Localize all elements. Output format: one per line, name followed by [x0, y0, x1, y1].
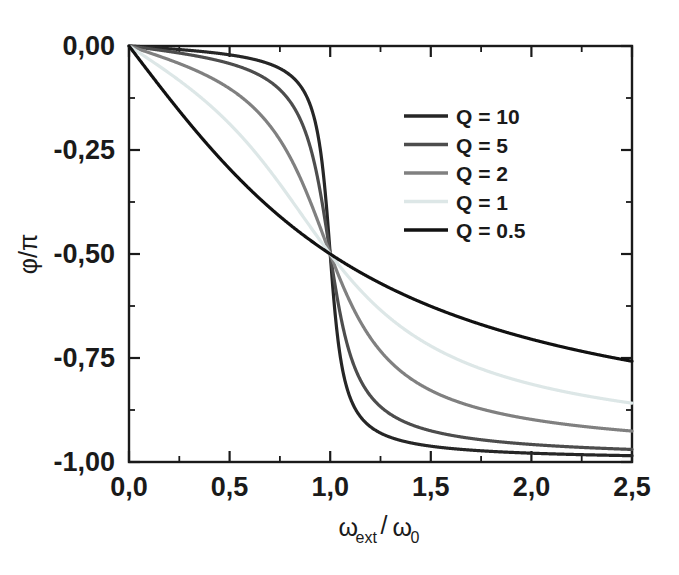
chart-legend: Q = 10Q = 5Q = 2Q = 1Q = 0.5 — [404, 105, 526, 242]
plot-border — [129, 46, 632, 462]
y-axis-tick-labels: 0,00-0,25-0,50-0,75-1,00 — [53, 31, 115, 477]
x-title-omega-0: ω — [393, 513, 413, 541]
x-tick-label: 2,0 — [513, 472, 551, 502]
plot-frame — [129, 46, 632, 462]
x-tick-label: 0,0 — [110, 472, 148, 502]
x-tick-label: 1,0 — [311, 472, 349, 502]
data-curves — [129, 46, 632, 456]
y-tick-label: -1,00 — [53, 447, 115, 477]
chart-canvas: 0,00,51,01,52,02,5 0,00-0,25-0,50-0,75-1… — [0, 0, 679, 575]
x-tick-label: 0,5 — [211, 472, 249, 502]
y-tick-label: 0,00 — [62, 31, 115, 61]
legend-label: Q = 2 — [456, 162, 508, 185]
curve-q-10 — [129, 46, 632, 456]
curve-q-0-5 — [129, 46, 632, 361]
x-title-sub-ext: ext — [356, 529, 378, 546]
x-title-sub-zero: 0 — [411, 529, 420, 546]
curve-q-2 — [129, 46, 632, 431]
legend-label: Q = 10 — [456, 105, 520, 128]
legend-label: Q = 1 — [456, 191, 508, 214]
y-axis-title: φ/π — [14, 234, 42, 274]
y-tick-label: -0,50 — [53, 239, 115, 269]
phase-response-chart: 0,00,51,01,52,02,5 0,00-0,25-0,50-0,75-1… — [0, 0, 679, 575]
legend-label: Q = 0.5 — [456, 219, 526, 242]
x-tick-label: 2,5 — [613, 472, 651, 502]
x-axis-tick-labels: 0,00,51,01,52,02,5 — [110, 472, 651, 502]
y-tick-label: -0,75 — [53, 343, 115, 373]
axis-ticks — [129, 46, 632, 462]
x-tick-label: 1,5 — [412, 472, 450, 502]
x-title-slash: / — [381, 511, 388, 539]
y-tick-label: -0,25 — [53, 135, 115, 165]
legend-label: Q = 5 — [456, 134, 508, 157]
y-title-text: φ/π — [14, 234, 42, 274]
x-axis-title: ωext/ω0 — [339, 511, 420, 546]
